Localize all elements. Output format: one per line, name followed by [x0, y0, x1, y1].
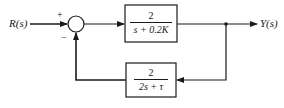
- minus-sign: −: [61, 33, 67, 43]
- forward-denominator: s + 0.2K: [134, 23, 169, 35]
- feedback-denominator: 2s + τ: [139, 80, 163, 92]
- forward-numerator: 2: [149, 10, 154, 22]
- output-label: Y(s): [260, 18, 278, 29]
- feedback-path-right: [177, 24, 226, 80]
- feedback-transfer-function: 2 2s + τ: [134, 67, 168, 92]
- plus-sign: +: [57, 10, 63, 20]
- feedback-numerator: 2: [149, 67, 154, 79]
- summing-junction: [68, 16, 84, 32]
- forward-transfer-function: 2 s + 0.2K: [130, 10, 172, 35]
- feedback-path-left: [76, 33, 126, 80]
- input-label: R(s): [9, 18, 27, 29]
